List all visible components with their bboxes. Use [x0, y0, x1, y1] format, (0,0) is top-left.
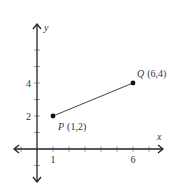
y-tick-label: 4	[26, 78, 31, 89]
tick-marks	[21, 50, 149, 166]
x-tick-label: 1	[51, 154, 56, 165]
x-axis-label: x	[156, 131, 162, 142]
point-p	[51, 114, 56, 119]
point-q-label: Q(6,4)	[137, 68, 166, 80]
point-q-name: Q	[137, 68, 145, 79]
point-p-name: P	[57, 121, 64, 132]
point-q-coords: (6,4)	[147, 68, 166, 80]
point-p-coords: (1,2)	[67, 121, 86, 133]
point-p-label: P(1,2)	[57, 121, 86, 133]
point-q	[131, 81, 136, 86]
coordinate-plane: x y 1624 P(1,2) Q(6,4)	[0, 0, 180, 194]
x-tick-label: 6	[131, 154, 136, 165]
y-axis-label: y	[43, 22, 49, 33]
y-tick-label: 2	[26, 111, 31, 122]
segment-pq	[53, 83, 133, 116]
